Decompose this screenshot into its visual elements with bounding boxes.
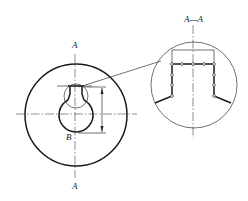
detail-circle (151, 42, 237, 128)
main-view: A B A (16, 40, 161, 191)
outer-circle (25, 64, 127, 166)
technical-drawing: A B A A—A (0, 0, 248, 201)
label-section-top: A (71, 40, 78, 50)
leader-line (79, 61, 161, 87)
label-point-b: B (66, 132, 72, 142)
dimension-arrow-top (101, 88, 104, 94)
shaft-circle (59, 100, 93, 132)
detail-reference-circle (64, 84, 88, 108)
dimension-arrow-bottom (101, 126, 104, 132)
detail-title: A—A (183, 14, 204, 24)
keyway-slot (68, 86, 84, 100)
detail-view: A—A (151, 14, 237, 138)
label-section-bottom: A (71, 181, 78, 191)
